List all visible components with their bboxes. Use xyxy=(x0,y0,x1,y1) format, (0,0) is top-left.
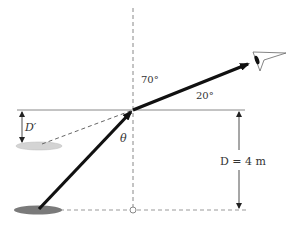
apparent-object-ellipse xyxy=(16,142,62,150)
ray-in-water xyxy=(39,112,131,209)
angle-surface-label: 20° xyxy=(196,90,214,101)
angle-above-label: 70° xyxy=(141,74,159,85)
theta-label: θ xyxy=(120,132,127,145)
real-object-ellipse xyxy=(14,206,62,215)
real-depth-label: D = 4 m xyxy=(220,155,267,168)
ray-in-air xyxy=(133,64,248,110)
eye-icon xyxy=(253,52,286,71)
refraction-diagram: 70° 20° θ D′ D = 4 m xyxy=(0,0,300,229)
normal-foot-marker xyxy=(130,207,136,213)
apparent-depth-label: D′ xyxy=(24,121,37,134)
